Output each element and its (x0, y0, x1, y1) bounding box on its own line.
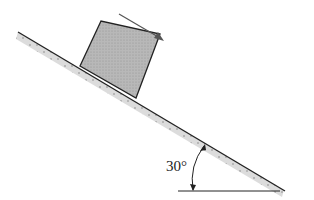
angle-arc (192, 146, 204, 190)
arc-arrow-bottom (190, 184, 196, 191)
diagram-canvas: 30° (0, 0, 314, 200)
incline-diagram (0, 0, 314, 200)
block (80, 21, 160, 98)
angle-label: 30° (166, 158, 187, 175)
